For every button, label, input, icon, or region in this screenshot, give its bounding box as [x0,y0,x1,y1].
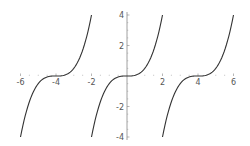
y-tick-label: 4 [119,11,124,20]
x-tick-label: -2 [88,78,96,87]
x-tick-label: 6 [231,78,236,87]
x-tick-label: 2 [160,78,165,87]
x-tick-label: -6 [17,78,25,87]
y-tick-label: -4 [116,133,124,142]
y-tick-label: 2 [119,42,124,51]
y-tick-label: -2 [116,103,124,112]
x-tick-label: 4 [195,78,200,87]
chart: -6-4-224642-2-4 [0,0,250,146]
x-tick-label: -4 [52,78,60,87]
